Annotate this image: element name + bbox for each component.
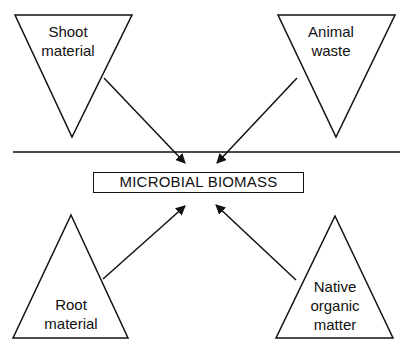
arrow-shoot-to-biomass	[104, 78, 185, 163]
shoot-material-label: Shoot material	[28, 22, 108, 60]
root-label-line-2: material	[31, 314, 111, 333]
root-material-label: Root material	[31, 295, 111, 333]
arrow-native-to-biomass	[216, 205, 296, 280]
animal-label-line-1: Animal	[291, 22, 371, 41]
native-label-line-3: matter	[295, 315, 375, 334]
microbial-biomass-box: MICROBIAL BIOMASS	[93, 172, 304, 193]
shoot-label-line-2: material	[28, 41, 108, 60]
native-label-line-1: Native	[295, 277, 375, 296]
native-organic-matter-label: Native organic matter	[295, 277, 375, 334]
arrow-animal-to-biomass	[217, 78, 297, 163]
arrow-root-to-biomass	[103, 206, 185, 279]
animal-waste-label: Animal waste	[291, 22, 371, 60]
native-label-line-2: organic	[295, 296, 375, 315]
shoot-label-line-1: Shoot	[28, 22, 108, 41]
root-label-line-1: Root	[31, 295, 111, 314]
animal-label-line-2: waste	[291, 41, 371, 60]
